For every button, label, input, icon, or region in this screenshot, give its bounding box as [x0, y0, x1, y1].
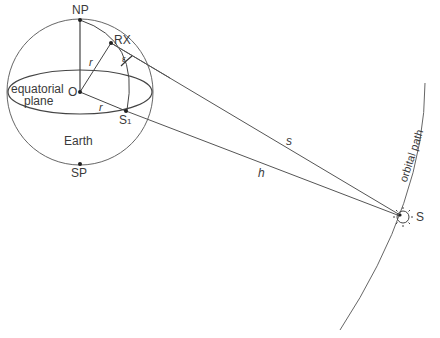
satellite-icon: [393, 207, 413, 227]
o-point: [78, 90, 82, 94]
slant-range-label: s: [286, 135, 292, 147]
earth-label: Earth: [64, 135, 93, 147]
altitude-line: [126, 111, 400, 216]
radius-to-s1: [80, 92, 126, 111]
sp-label: SP: [71, 167, 87, 179]
rx-label: RX: [114, 34, 131, 46]
np-point: [78, 18, 82, 22]
radius-to-rx: [80, 43, 111, 92]
geometry-diagram: [0, 0, 440, 338]
radius-label-1: r: [89, 57, 93, 68]
elevation-angle-label: ε: [122, 55, 126, 64]
orbital-path-arc: [340, 83, 425, 330]
radius-label-2: r: [99, 102, 103, 113]
equatorial-label-line2: plane: [24, 95, 53, 107]
rx-point: [109, 41, 113, 45]
o-label: O: [68, 86, 77, 98]
np-label: NP: [72, 4, 89, 16]
horizon-line: [111, 43, 170, 78]
s1-label: S1: [119, 114, 131, 126]
satellite-point: [398, 213, 401, 216]
altitude-label: h: [258, 167, 265, 179]
satellite-label: S: [416, 211, 424, 223]
